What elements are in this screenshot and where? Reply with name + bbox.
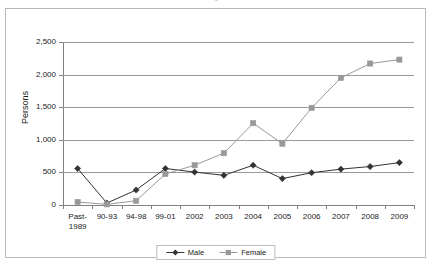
data-series-layer: [63, 42, 414, 205]
x-axis-tick-label: 2009: [390, 212, 408, 222]
x-axis-tick: [92, 205, 93, 209]
data-point-marker: [192, 163, 197, 168]
y-axis-tick-label: 1,000: [36, 136, 56, 144]
x-axis-tick: [414, 205, 415, 209]
x-axis-tick: [122, 205, 123, 209]
x-axis-tick-label: Past-1989: [68, 212, 87, 231]
series-male: [75, 160, 403, 207]
data-point-marker: [309, 105, 314, 110]
y-axis-tick-label: 2,500: [36, 38, 56, 46]
x-axis-tick: [209, 205, 210, 209]
data-point-marker: [279, 175, 285, 181]
x-axis-tick-label: 2008: [361, 212, 379, 222]
x-axis-tick-label: 2003: [215, 212, 233, 222]
x-axis-tick: [180, 205, 181, 209]
series-female: [75, 57, 402, 207]
chart-frame: Persons 05001,0001,5002,0002,500 Past-19…: [5, 8, 426, 258]
x-axis-tick: [356, 205, 357, 209]
chart-legend: MaleFemale: [156, 245, 275, 260]
series-line: [78, 163, 400, 203]
legend-label: Female: [241, 249, 266, 257]
clipped-chart-title: ▪: [0, 0, 432, 6]
clipped-chart-title-text: ▪: [214, 0, 217, 4]
legend-label: Male: [188, 249, 204, 257]
data-point-marker: [251, 121, 256, 126]
data-point-marker: [396, 160, 402, 166]
x-axis-tick-label: 90-93: [97, 212, 117, 222]
y-axis-tick-label: 2,000: [36, 71, 56, 79]
x-axis-tick: [63, 205, 64, 209]
data-point-marker: [338, 166, 344, 172]
x-axis-tick: [239, 205, 240, 209]
y-axis-tick-label: 0: [52, 201, 56, 209]
data-point-marker: [104, 202, 109, 207]
data-point-marker: [367, 163, 373, 169]
data-point-marker: [280, 141, 285, 146]
legend-marker-icon: [218, 248, 238, 257]
data-point-marker: [368, 61, 373, 66]
x-axis-tick-label: 2005: [273, 212, 291, 222]
legend-marker-icon: [165, 248, 185, 257]
x-axis-tick: [151, 205, 152, 209]
x-axis-tick-label: 2004: [244, 212, 262, 222]
y-axis-title: Persons: [20, 91, 30, 124]
x-axis-tick-label: 99-01: [155, 212, 175, 222]
chart-screenshot: ▪ Persons 05001,0001,5002,0002,500 Past-…: [0, 0, 432, 264]
legend-entry-male[interactable]: Male: [165, 248, 204, 257]
data-point-marker: [221, 172, 227, 178]
series-line: [78, 60, 400, 205]
data-point-marker: [134, 198, 139, 203]
data-point-marker: [221, 151, 226, 156]
data-point-marker: [163, 171, 168, 176]
data-point-marker: [309, 170, 315, 176]
data-point-marker: [250, 162, 256, 168]
x-axis-tick-label: 94-98: [126, 212, 146, 222]
x-axis-tick: [326, 205, 327, 209]
data-point-marker: [192, 169, 198, 175]
legend-entry-female[interactable]: Female: [218, 248, 266, 257]
data-point-marker: [75, 199, 80, 204]
x-axis-tick: [297, 205, 298, 209]
x-axis-tick: [385, 205, 386, 209]
data-point-marker: [338, 75, 343, 80]
y-axis-tick-label: 500: [43, 168, 56, 176]
data-point-marker: [397, 57, 402, 62]
x-axis-tick-label: 2006: [303, 212, 321, 222]
x-axis-tick-label: 2002: [186, 212, 204, 222]
x-axis-tick: [268, 205, 269, 209]
x-axis-tick-label: 2007: [332, 212, 350, 222]
y-axis-tick-label: 1,500: [36, 103, 56, 111]
plot-area: 05001,0001,5002,0002,500 Past-198990-939…: [63, 42, 414, 205]
